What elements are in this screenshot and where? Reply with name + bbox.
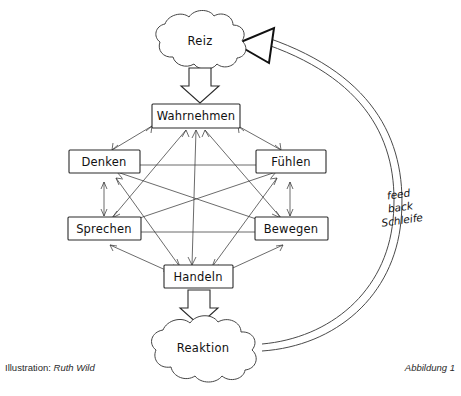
- illustration-credit-name: Ruth Wild: [54, 362, 95, 373]
- node-sprechen-label: Sprechen: [76, 222, 132, 236]
- node-network: [101, 126, 293, 272]
- node-denken-label: Denken: [81, 155, 126, 169]
- edge-denken-sprechen: [101, 182, 107, 216]
- node-fuehlen[interactable]: Fühlen: [256, 150, 326, 173]
- edge-sprechen-handeln: [110, 245, 170, 272]
- node-handeln-label: Handeln: [173, 270, 222, 284]
- feedback-loop-label-line3: Schleife: [381, 211, 424, 229]
- feedback-loop-inner-curve: [262, 38, 402, 351]
- diagram-canvas: Reiz: [0, 0, 461, 396]
- edge-wahrnehmen-fuehlen: [238, 126, 281, 150]
- edge-wahrnehmen-denken: [112, 126, 152, 150]
- node-wahrnehmen[interactable]: Wahrnehmen: [152, 104, 240, 128]
- figure-caption: Abbildung 1: [405, 362, 455, 373]
- diagram-svg: Reiz: [0, 0, 461, 396]
- edge-wahrnehmen-handeln: [188, 130, 200, 265]
- reiz-cloud-label: Reiz: [188, 34, 213, 48]
- node-handeln[interactable]: Handeln: [164, 265, 233, 288]
- cloud-reiz: Reiz: [156, 10, 246, 69]
- edge-fuehlen-bewegen: [287, 182, 293, 216]
- node-sprechen[interactable]: Sprechen: [68, 217, 141, 240]
- illustration-credit: Illustration: Ruth Wild: [5, 362, 95, 373]
- node-wahrnehmen-label: Wahrnehmen: [157, 109, 236, 123]
- feedback-loop-outer-curve: [262, 45, 394, 344]
- reaktion-cloud-label: Reaktion: [177, 341, 230, 355]
- node-bewegen[interactable]: Bewegen: [255, 217, 328, 240]
- cloud-reaktion: Reaktion: [152, 316, 257, 382]
- block-arrow-reiz-to-wahrnehmen: [181, 68, 219, 103]
- feedback-loop-label: feed back Schleife: [377, 185, 423, 228]
- node-denken[interactable]: Denken: [69, 150, 140, 173]
- feedback-loop: [236, 28, 402, 351]
- illustration-credit-prefix: Illustration:: [5, 362, 51, 373]
- node-bewegen-label: Bewegen: [264, 222, 319, 236]
- node-fuehlen-label: Fühlen: [271, 155, 310, 169]
